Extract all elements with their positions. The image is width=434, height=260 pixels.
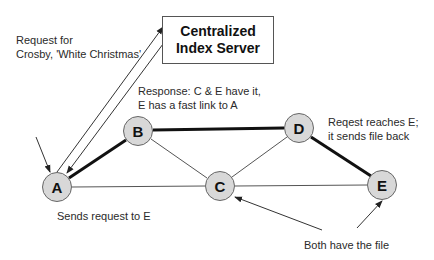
request-annotation: Request for Crosby, 'White Christmas' [16,33,141,61]
edge-a-c [72,186,205,187]
response-annotation: Response: C & E have it, E has a fast li… [138,84,261,112]
edge-b-d [153,128,284,130]
node-b: B [123,116,153,146]
edge-c-e [235,185,367,186]
pointer-arrow-a [36,137,50,172]
pointer-arrow-c [235,197,322,230]
node-b-label: B [133,123,144,140]
node-c: C [205,171,235,201]
centralized-index-server: Centralized Index Server [162,16,274,64]
server-title-line1: Centralized [180,23,255,40]
sends-annotation: Sends request to E [57,209,151,223]
node-c-label: C [215,178,226,195]
node-a: A [42,172,72,202]
pointer-arrow-e [357,201,382,228]
node-d: D [284,113,314,143]
edge-c-d [232,137,287,177]
both-annotation: Both have the file [304,238,389,252]
server-title-line2: Index Server [176,40,260,57]
node-a-label: A [52,179,63,196]
edge-b-c [151,139,207,178]
node-d-label: D [294,120,305,137]
node-e-label: E [377,177,387,194]
reaches-annotation: Reqest reaches E; it sends file back [328,115,419,143]
node-e: E [367,170,397,200]
